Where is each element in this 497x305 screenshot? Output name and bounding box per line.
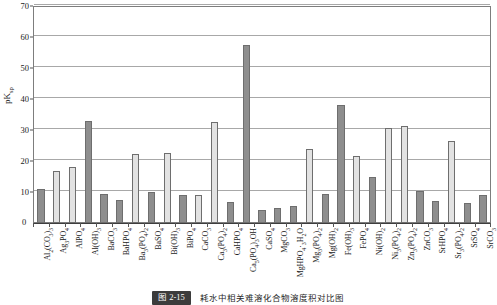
x-tick-mark xyxy=(207,223,208,227)
x-tick-mark xyxy=(333,223,334,227)
x-tick-mark xyxy=(428,223,429,227)
y-tick-label-40: 40 xyxy=(21,95,30,104)
bar xyxy=(85,121,92,223)
bar xyxy=(401,126,408,223)
bar xyxy=(432,201,439,223)
bar xyxy=(274,208,281,224)
x-tick-mark xyxy=(301,223,302,227)
x-axis-label: Ni3(PO4)2 xyxy=(392,228,403,260)
x-axis-label: FePO4 xyxy=(360,228,371,249)
y-tick-label-50: 50 xyxy=(21,64,30,73)
x-axis-label: SrSO4 xyxy=(471,228,482,248)
x-axis-label: SrHPO4 xyxy=(439,228,450,254)
x-axis-label: Al(OH)3 xyxy=(92,228,103,255)
bar xyxy=(100,194,107,223)
bar xyxy=(464,203,471,223)
bar xyxy=(385,128,392,223)
x-axis-label: Mg3(PO4)2 xyxy=(313,228,324,263)
x-axis-labels: Al2(CO3)3Ag3PO4AlPO4Al(OH)3BaCO3BaHPO4Ba… xyxy=(33,228,491,290)
x-tick-mark xyxy=(396,223,397,227)
x-tick-mark xyxy=(175,223,176,227)
y-axis-title: pKsp xyxy=(2,87,14,104)
bar xyxy=(53,171,60,223)
x-axis-label: ZnCO3 xyxy=(424,228,435,251)
x-axis-label: SrCO3 xyxy=(487,228,497,249)
x-tick-mark xyxy=(444,223,445,227)
x-tick-mark xyxy=(490,223,491,227)
x-tick-mark xyxy=(238,223,239,227)
x-axis-label: Sr3(PO4)2 xyxy=(455,228,466,259)
bar xyxy=(132,154,139,223)
bar xyxy=(69,167,76,223)
x-tick-mark xyxy=(475,223,476,227)
x-axis-label: CaCO3 xyxy=(202,228,213,251)
x-axis-label: Ni(OH)2 xyxy=(376,228,387,255)
y-tick-label-70: 70 xyxy=(21,2,30,11)
bar xyxy=(148,192,155,223)
bar xyxy=(164,153,171,223)
bar xyxy=(479,195,486,223)
x-tick-mark xyxy=(459,223,460,227)
x-tick-mark xyxy=(270,223,271,227)
x-axis-label: Al2(CO3)3 xyxy=(44,228,55,261)
bar xyxy=(37,189,44,223)
bar xyxy=(290,206,297,223)
y-tick-label-10: 10 xyxy=(21,188,30,197)
x-tick-mark xyxy=(159,223,160,227)
x-tick-mark xyxy=(96,223,97,227)
x-tick-mark xyxy=(128,223,129,227)
x-tick-mark xyxy=(33,223,34,227)
bar xyxy=(195,195,202,223)
x-tick-mark xyxy=(317,223,318,227)
bar xyxy=(322,194,329,223)
bar xyxy=(337,105,344,223)
figure-number-badge: 图 2-15 xyxy=(152,291,191,305)
figure-caption-text: 耗水中相关难溶化合物溶度积对比图 xyxy=(200,294,344,303)
x-axis-label: Ca5(PO4)3OH xyxy=(250,228,261,272)
x-axis-label: Ag3PO4 xyxy=(60,228,71,253)
bar xyxy=(258,210,265,223)
x-tick-mark xyxy=(112,223,113,227)
x-tick-mark xyxy=(412,223,413,227)
y-tick-label-60: 60 xyxy=(21,33,30,42)
x-axis-label: Ca3(PO4)2 xyxy=(218,228,229,261)
x-axis-label: AlPO4 xyxy=(76,228,87,249)
x-tick-mark xyxy=(365,223,366,227)
x-axis-label: MgHPO4·3H2O xyxy=(297,228,308,277)
bar xyxy=(227,202,234,223)
x-axis-label: BiPO4 xyxy=(187,228,198,248)
x-axis-label: CaSO4 xyxy=(266,228,277,250)
bar xyxy=(116,200,123,223)
bar xyxy=(243,45,250,223)
bar xyxy=(179,195,186,223)
x-tick-mark xyxy=(49,223,50,227)
bar xyxy=(211,122,218,223)
x-axis-label: BaSO4 xyxy=(155,228,166,250)
x-axis-label: Fe(OH)3 xyxy=(345,228,356,255)
x-axis-label: BaHPO4 xyxy=(123,228,134,255)
x-axis-label: Bi(OH)3 xyxy=(171,228,182,255)
bars-layer xyxy=(33,6,491,223)
x-tick-mark xyxy=(223,223,224,227)
x-axis-label: Zn3(PO4)2 xyxy=(408,228,419,261)
bar xyxy=(306,149,313,223)
x-tick-mark xyxy=(80,223,81,227)
y-axis-zero-label: 0 xyxy=(22,218,26,227)
y-axis: 10203040506070 xyxy=(0,0,33,223)
x-tick-mark xyxy=(254,223,255,227)
bar xyxy=(369,177,376,223)
x-tick-mark xyxy=(349,223,350,227)
bar xyxy=(416,191,423,223)
y-tick-label-30: 30 xyxy=(21,126,30,135)
bar xyxy=(448,141,455,223)
x-axis-label: Mg(OH)2 xyxy=(329,228,340,258)
x-tick-mark xyxy=(144,223,145,227)
x-tick-mark xyxy=(65,223,66,227)
x-tick-mark xyxy=(286,223,287,227)
gridline-70 xyxy=(34,4,490,5)
y-tick-label-20: 20 xyxy=(21,157,30,166)
x-tick-mark xyxy=(380,223,381,227)
x-axis-label: BaCO3 xyxy=(108,228,119,251)
x-axis-label: CaHPO4 xyxy=(234,228,245,255)
